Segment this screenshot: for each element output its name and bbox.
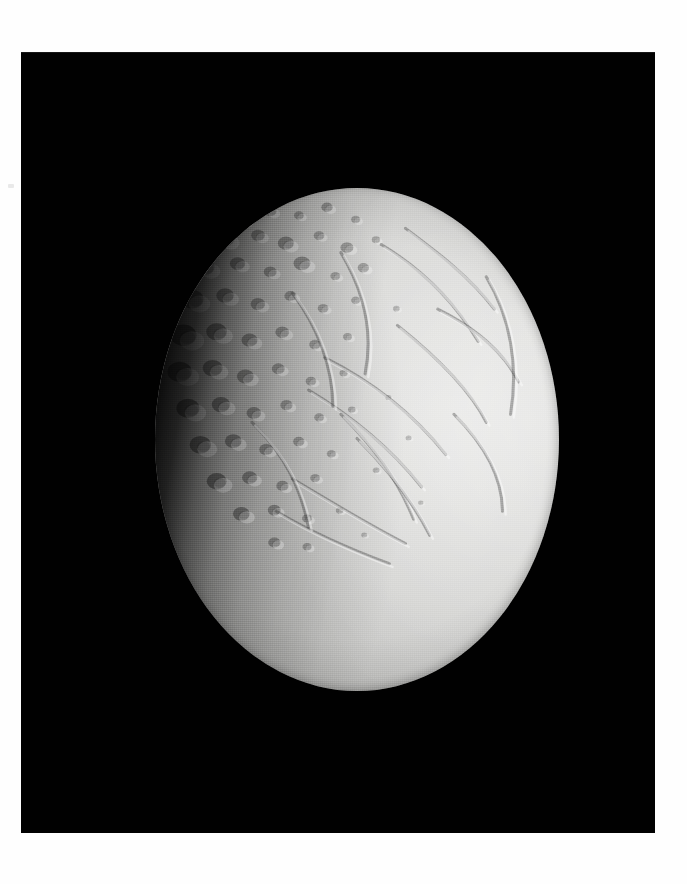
margin-speck [8, 184, 14, 188]
enceladus-body [155, 188, 559, 691]
film-grain [155, 188, 559, 691]
photograph-frame [21, 52, 655, 833]
print-page [0, 0, 687, 884]
moon-disk [155, 188, 559, 691]
frame-top-edge [21, 52, 655, 53]
